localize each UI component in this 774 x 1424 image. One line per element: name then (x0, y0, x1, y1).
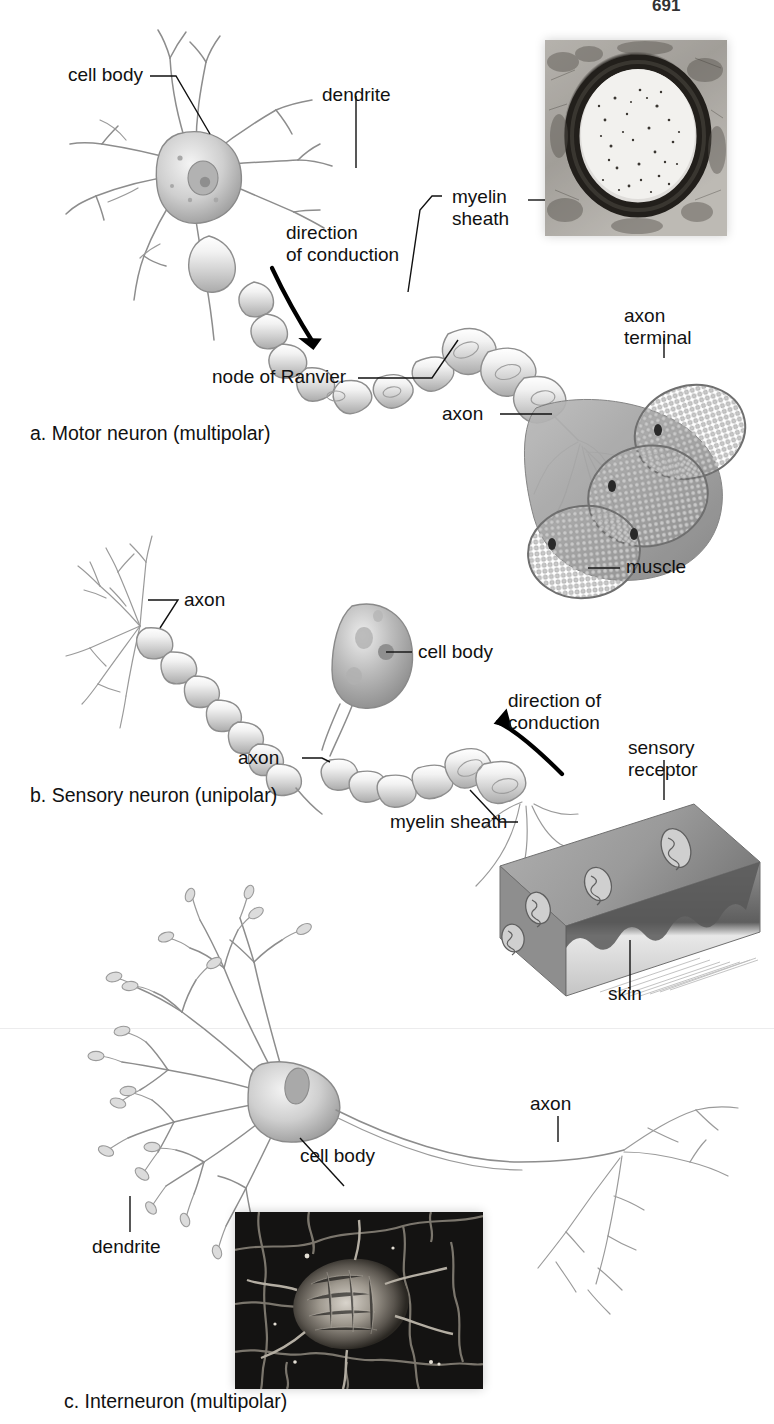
label-axon-terminal: axon terminal (624, 305, 692, 349)
interneuron-axon (336, 1110, 624, 1162)
micrograph-neuron-cell-body-sem (235, 1212, 483, 1389)
label-axon-c: axon (530, 1093, 571, 1115)
label-myelin-sheath-b: myelin sheath (390, 811, 507, 833)
label-cell-body-c: cell body (300, 1145, 375, 1167)
label-myelin-sheath-a: myelin sheath (452, 186, 509, 230)
sensory-left-tuft (66, 536, 152, 728)
sensory-axon-left (137, 628, 302, 796)
label-direction-of-conduction-a: direction of conduction (286, 222, 399, 266)
caption-panel-b: b. Sensory neuron (unipolar) (30, 784, 277, 807)
label-dendrite-c: dendrite (92, 1236, 161, 1258)
micrograph-myelinated-axon-cross-section (545, 40, 727, 236)
motor-myelinated-axon (189, 236, 578, 440)
label-axon-a: axon (442, 403, 483, 425)
label-muscle: muscle (626, 556, 686, 578)
sensory-axon-link (296, 788, 322, 814)
label-axon-b-lower: axon (238, 747, 279, 769)
label-direction-of-conduction-b: direction of conduction (508, 690, 601, 734)
label-skin: skin (608, 983, 642, 1005)
caption-panel-a: a. Motor neuron (multipolar) (30, 422, 271, 445)
motor-nucleolus (200, 177, 210, 187)
label-axon-b-left: axon (184, 589, 225, 611)
label-cell-body-b: cell body (418, 641, 493, 663)
sensory-soma (332, 604, 413, 708)
figure-page: 691 (0, 0, 774, 1424)
label-sensory-receptor: sensory receptor (628, 737, 698, 781)
label-cell-body-a: cell body (68, 64, 143, 86)
label-dendrite-a: dendrite (322, 84, 391, 106)
label-node-of-ranvier: node of Ranvier (212, 366, 346, 388)
caption-panel-c: c. Interneuron (multipolar) (64, 1390, 287, 1413)
interneuron-terminals (538, 1107, 738, 1314)
sensory-axon-right (321, 749, 526, 808)
